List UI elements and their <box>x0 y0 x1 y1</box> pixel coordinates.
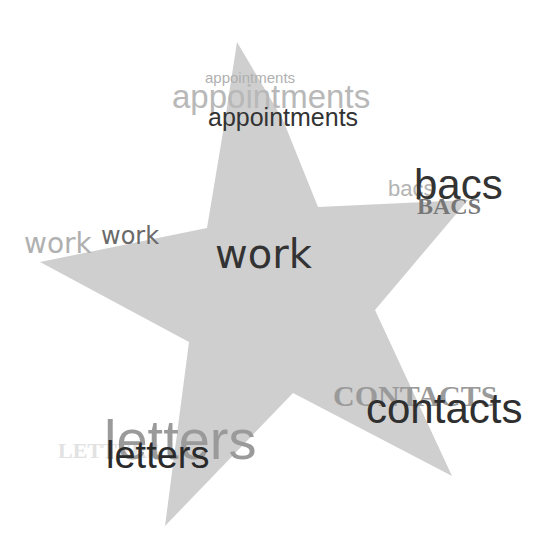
word-contacts-dark: contacts <box>366 388 522 430</box>
word-work-center: work <box>215 234 312 274</box>
word-appointments-dark: appointments <box>208 105 358 130</box>
word-bacs-dark: bacs <box>414 164 503 206</box>
word-cloud-canvas: appointments appointments appointments b… <box>0 0 556 542</box>
word-work-left-faint: work <box>24 230 92 258</box>
word-letters-dark: letters <box>106 436 209 474</box>
word-work-left-mid: work <box>101 224 159 248</box>
